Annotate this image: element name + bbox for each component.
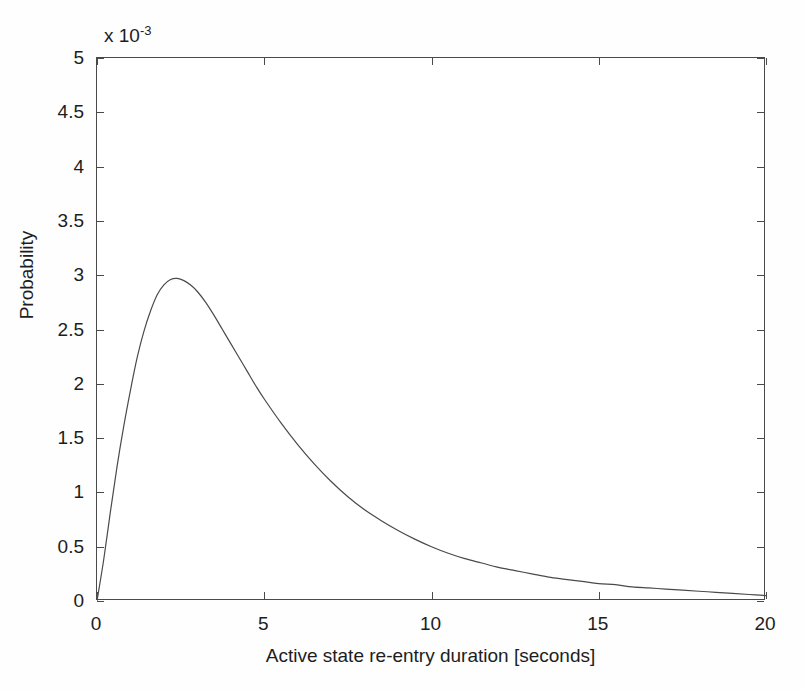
y-axis-tickmark [97,221,104,222]
x-axis-tickmark [264,58,265,65]
y-axis-tick-label: 2 [0,373,84,392]
y-axis-exponent-label: x 10-3 [104,24,151,45]
x-axis-tick-label: 20 [754,614,775,633]
x-axis-tick-label: 15 [587,614,608,633]
x-axis-tickmark [432,58,433,65]
y-axis-tickmark [757,492,764,493]
y-axis-tick-label: 3 [0,265,84,284]
x-axis-tickmark [97,58,98,65]
y-axis-tickmark [757,275,764,276]
y-axis-tickmark [97,112,104,113]
y-axis-tickmark [757,384,764,385]
y-axis-tickmark [757,601,764,602]
x-axis-tickmark [599,592,600,599]
y-axis-tickmark [97,601,104,602]
x-axis-tickmark [97,592,98,599]
y-axis-tickmark [97,492,104,493]
x-axis-tick-label: 5 [258,614,269,633]
y-axis-tick-label: 4.5 [0,102,84,121]
y-axis-tick-label: 0 [0,591,84,610]
x-axis-tickmark [766,58,767,65]
y-axis-tickmark [757,330,764,331]
y-axis-tickmark [757,112,764,113]
y-axis-exponent-prefix: x 10 [104,25,140,46]
x-axis-tickmark [432,592,433,599]
x-axis-tickmark [766,592,767,599]
y-axis-tickmark [757,167,764,168]
x-axis-tickmark [264,592,265,599]
y-axis-tickmark [757,58,764,59]
x-axis-tick-label: 10 [420,614,441,633]
y-axis-tickmark [757,221,764,222]
curve-path [97,278,766,601]
y-axis-tickmark [757,438,764,439]
y-axis-tickmark [97,275,104,276]
y-axis-exponent-value: -3 [140,23,152,38]
y-axis-tickmark [757,547,764,548]
plot-area [96,57,765,600]
y-axis-tickmark [97,58,104,59]
y-axis-tick-label: 5 [0,48,84,67]
y-axis-tick-label: 0.5 [0,536,84,555]
y-axis-tick-label: 3.5 [0,210,84,229]
x-axis-title: Active state re-entry duration [seconds] [96,645,765,667]
y-axis-tickmark [97,330,104,331]
x-axis-tick-label: 0 [91,614,102,633]
y-axis-tick-label: 2.5 [0,319,84,338]
probability-density-curve [97,58,766,601]
y-axis-tickmark [97,438,104,439]
figure-canvas: x 10-3 Probability Active state re-entry… [0,0,805,690]
y-axis-tick-label: 1.5 [0,428,84,447]
y-axis-tickmark [97,384,104,385]
y-axis-tickmark [97,167,104,168]
x-axis-tickmark [599,58,600,65]
y-axis-tickmark [97,547,104,548]
y-axis-tick-label: 1 [0,482,84,501]
y-axis-tick-label: 4 [0,156,84,175]
